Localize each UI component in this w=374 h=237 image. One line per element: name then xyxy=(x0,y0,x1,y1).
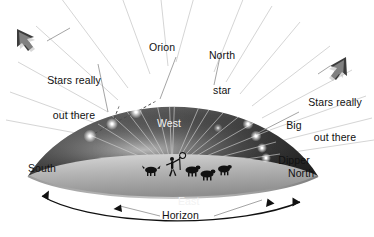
label-west: West xyxy=(157,118,181,130)
label-south: South xyxy=(28,163,56,175)
label-line-1: Big xyxy=(272,120,316,132)
label-horizon: Horizon xyxy=(162,210,199,222)
label-line-2: out there xyxy=(33,110,115,122)
diagram-canvas: Stars really out there Orion North star … xyxy=(0,0,374,237)
label-line-2: Dipper xyxy=(272,155,316,167)
label-orion: Orion xyxy=(149,42,175,54)
label-east: East xyxy=(178,196,199,208)
label-north: North xyxy=(288,168,314,180)
arrow-up-left-icon xyxy=(17,29,35,52)
label-stars-out-there-left: Stars really out there xyxy=(33,52,115,144)
label-line-1: Stars really xyxy=(33,75,115,87)
label-north-star: North star xyxy=(199,27,245,119)
label-line-1: North xyxy=(199,50,245,62)
label-line-2: star xyxy=(199,85,245,97)
